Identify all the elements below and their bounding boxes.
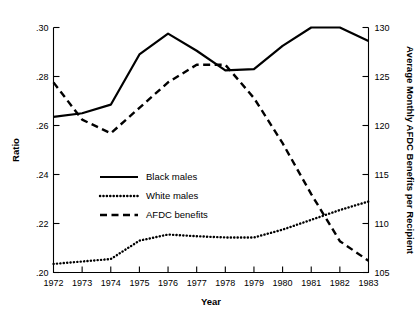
- y-axis-title: Ratio: [10, 138, 21, 162]
- y2-axis-tick-label: 125: [375, 72, 390, 82]
- x-axis-tick-label: 1973: [72, 278, 92, 288]
- x-axis-tick-label: 1980: [273, 278, 293, 288]
- x-axis-tick-label: 1977: [187, 278, 207, 288]
- y2-axis-tick-label: 115: [375, 170, 389, 180]
- x-axis-tick-label: 1974: [101, 278, 121, 288]
- chart-plot-area: .20.22.24.26.28.30 105110115120125130 19…: [0, 0, 419, 321]
- y2-axis-tick-label: 105: [375, 268, 390, 278]
- x-axis-tick-label: 1972: [43, 278, 63, 288]
- legend-label-afdc-benefits: AFDC benefits: [146, 209, 208, 220]
- y-axis-tick-label: .22: [36, 219, 49, 229]
- y2-axis-ticks: 105110115120125130: [363, 23, 390, 278]
- x-axis-tick-label: 1975: [129, 278, 149, 288]
- y-axis-tick-label: .28: [36, 72, 49, 82]
- x-axis-tick-label: 1976: [158, 278, 178, 288]
- chart-legend: Black malesWhite malesAFDC benefits: [100, 171, 208, 220]
- y-axis-ticks: .20.22.24.26.28.30: [36, 23, 60, 278]
- legend-label-white-males: White males: [146, 190, 199, 201]
- y2-axis-tick-label: 110: [375, 219, 389, 229]
- x-axis-tick-label: 1982: [330, 278, 350, 288]
- y-axis-tick-label: .24: [36, 170, 49, 180]
- series-line-afdc-benefits: [54, 65, 369, 261]
- y2-axis-tick-label: 120: [375, 121, 390, 131]
- x-axis-ticks: 1972197319741975197619771978197919801981…: [43, 267, 378, 288]
- legend-label-black-males: Black males: [146, 171, 197, 182]
- y-axis-tick-label: .26: [36, 121, 49, 131]
- x-axis-title: Year: [201, 296, 221, 307]
- y2-axis-title: Average Monthly AFDC Benefits per Recipi…: [405, 46, 416, 255]
- x-axis-tick-label: 1979: [244, 278, 264, 288]
- x-axis-tick-label: 1983: [358, 278, 378, 288]
- series-line-black-males: [54, 28, 369, 117]
- y-axis-tick-label: .30: [36, 23, 49, 33]
- x-axis-tick-label: 1981: [301, 278, 321, 288]
- y-axis-tick-label: .20: [36, 268, 49, 278]
- chart-figure: .20.22.24.26.28.30 105110115120125130 19…: [0, 0, 419, 321]
- x-axis-tick-label: 1978: [215, 278, 235, 288]
- data-series-group: [54, 28, 369, 264]
- y2-axis-tick-label: 130: [375, 23, 390, 33]
